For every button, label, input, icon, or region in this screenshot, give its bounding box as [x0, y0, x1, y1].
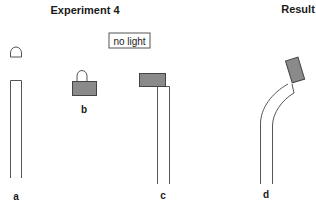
agar-block-icon — [73, 82, 97, 96]
stem-curve-inner-icon — [273, 84, 295, 184]
agar-block-icon — [286, 57, 305, 83]
panel-d: d — [261, 57, 305, 200]
panel-label-a: a — [13, 191, 19, 202]
stem-tube-icon — [11, 81, 22, 179]
panel-a: a — [11, 47, 22, 202]
stem-tube-icon — [158, 87, 170, 185]
no-light-box: no light — [109, 33, 150, 48]
coleoptile-tip-icon — [11, 47, 22, 57]
diagram-canvas: Experiment 4 Result no light a b c d — [0, 0, 316, 215]
panel-c: c — [140, 74, 170, 202]
panel-b: b — [73, 71, 97, 115]
panel-label-c: c — [160, 190, 166, 201]
agar-block-icon — [140, 74, 166, 87]
coleoptile-tip-icon — [77, 71, 87, 81]
stem-curve-outer-icon — [261, 84, 289, 184]
no-light-text: no light — [113, 36, 145, 47]
panel-label-b: b — [81, 104, 87, 115]
experiment-title: Experiment 4 — [50, 4, 120, 16]
result-title: Result — [281, 3, 315, 15]
panel-label-d: d — [263, 189, 269, 200]
